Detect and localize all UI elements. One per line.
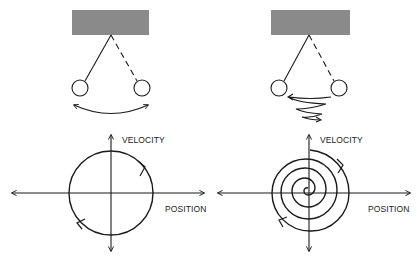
- ceiling-support: [72, 10, 149, 35]
- pendulum-bob-right: [134, 80, 150, 96]
- position-axis-label: POSITION: [368, 204, 409, 214]
- pendulum-bob-right: [331, 80, 347, 96]
- damped-phase-plot: VELOCITY POSITION: [218, 135, 410, 251]
- velocity-axis-label: VELOCITY: [320, 135, 363, 145]
- undamped-pendulum: [72, 10, 150, 114]
- damped-pendulum: [271, 10, 350, 122]
- position-axis-label: POSITION: [165, 204, 206, 214]
- ceiling-support: [271, 10, 350, 35]
- pendulum-bob-left: [271, 80, 287, 96]
- undamped-phase-plot: VELOCITY POSITION: [12, 135, 206, 251]
- direction-arrow-icon: [138, 161, 145, 176]
- decaying-swing-arrow-icon: [289, 97, 331, 120]
- pendulum-rod-solid: [284, 35, 309, 81]
- pendulum-rod-solid: [85, 35, 111, 81]
- pendulum-bob-left: [72, 80, 88, 96]
- velocity-axis-label: VELOCITY: [122, 135, 165, 145]
- direction-arrow-icon: [77, 219, 85, 229]
- swing-arrow-icon: [74, 105, 148, 114]
- diagram-canvas: VELOCITY POSITION VELOCITY POSITION: [0, 0, 417, 264]
- pendulum-rod-dashed: [111, 35, 137, 81]
- pendulum-rod-dashed: [309, 35, 334, 81]
